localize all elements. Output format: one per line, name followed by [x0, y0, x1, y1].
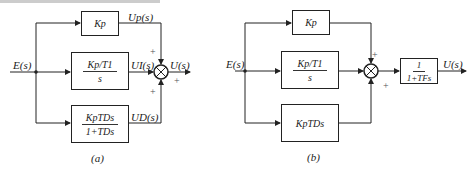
integral-denominator: s: [308, 71, 312, 83]
proportional-block-b: Kp: [292, 10, 330, 35]
derivative-numerator: KpTDs: [82, 112, 118, 125]
output-label-a: U(s): [170, 60, 190, 71]
sign-plus: +: [174, 75, 180, 86]
input-label-b: E(s): [226, 59, 244, 70]
pid-block-diagrams: E(s) Kp Kp/T1 s KpTDs 1+TDs Up(s) UI(s) …: [0, 0, 470, 171]
integral-numerator: Kp/T1: [293, 58, 326, 71]
signal-ud: UD(s): [131, 112, 159, 123]
sign-plus: +: [150, 46, 156, 57]
integral-numerator: Kp/T1: [83, 59, 116, 72]
sign-plus: +: [150, 86, 156, 97]
derivative-gain: KpTDs: [296, 118, 324, 129]
input-label-a: E(s): [13, 60, 31, 71]
proportional-gain: Kp: [305, 17, 317, 28]
filter-numerator: 1: [413, 60, 426, 72]
proportional-gain: Kp: [94, 18, 106, 29]
caption-a: (a): [91, 152, 104, 164]
derivative-block-b: KpTDs: [281, 104, 339, 142]
integral-block-a: Kp/T1 s: [71, 52, 129, 90]
derivative-denominator: 1+TDs: [86, 125, 114, 137]
integral-block-b: Kp/T1 s: [281, 51, 339, 89]
caption-b: (b): [307, 151, 320, 163]
proportional-block-a: Kp: [81, 11, 119, 36]
filter-block-b: 1 1+TFs: [400, 58, 438, 84]
integral-denominator: s: [98, 72, 102, 84]
sign-plus: +: [383, 80, 389, 91]
output-label-b: U(s): [443, 59, 463, 70]
filter-denominator: 1+TFs: [407, 72, 432, 83]
sign-plus: +: [372, 49, 378, 60]
derivative-block-a: KpTDs 1+TDs: [71, 105, 129, 143]
signal-up: Up(s): [128, 12, 153, 23]
signal-ui: UI(s): [131, 60, 154, 71]
